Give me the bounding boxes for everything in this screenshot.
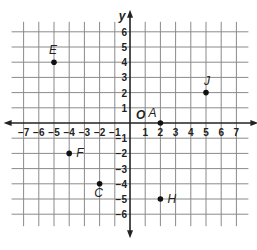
x-tick-label: −3: [79, 127, 91, 138]
point-label-f: F: [76, 146, 84, 160]
y-tick-label: 1: [121, 103, 127, 114]
point-label-j: J: [203, 74, 211, 88]
point-e: [51, 59, 57, 65]
y-tick-label: −5: [116, 194, 128, 205]
y-tick-label: 2: [121, 88, 127, 99]
x-tick-label: 4: [188, 127, 194, 138]
point-label-e: E: [49, 43, 58, 57]
point-label-c: C: [94, 186, 103, 200]
point-label-h: H: [167, 192, 176, 206]
point-a: [158, 120, 164, 126]
x-tick-label: −7: [18, 127, 30, 138]
y-axis-down-arrow-icon: [127, 230, 133, 238]
x-tick-label: −5: [48, 127, 60, 138]
y-tick-label: 4: [121, 57, 127, 68]
x-axis-left-arrow-icon: [4, 120, 12, 126]
y-tick-label: 3: [121, 72, 127, 83]
point-j: [203, 90, 209, 96]
y-tick-label: 6: [121, 27, 127, 38]
y-tick-label: −4: [116, 179, 128, 190]
x-tick-label: 7: [234, 127, 240, 138]
x-tick-label: −6: [33, 127, 45, 138]
y-tick-label: −1: [116, 133, 128, 144]
point-f: [66, 151, 72, 157]
x-tick-label: −2: [94, 127, 106, 138]
point-h: [158, 196, 164, 202]
x-tick-label: 6: [218, 127, 224, 138]
axes: [4, 10, 257, 238]
coordinate-plane: xyO−7−6−5−4−3−2−11234567654321−1−2−3−4−5…: [0, 0, 257, 250]
x-tick-label: −4: [63, 127, 75, 138]
x-axis-right-arrow-icon: [250, 120, 257, 126]
x-tick-label: 3: [173, 127, 179, 138]
y-axis-up-arrow-icon: [127, 10, 133, 18]
y-axis-label: y: [118, 9, 127, 23]
y-tick-label: −3: [116, 164, 128, 175]
y-tick-label: 5: [121, 42, 127, 53]
x-tick-label: 1: [142, 127, 148, 138]
x-tick-label: 2: [158, 127, 164, 138]
origin-label: O: [136, 108, 146, 122]
y-tick-label: −2: [116, 148, 128, 159]
point-label-a: A: [147, 106, 156, 120]
y-tick-label: −6: [116, 209, 128, 220]
x-tick-label: 5: [203, 127, 209, 138]
